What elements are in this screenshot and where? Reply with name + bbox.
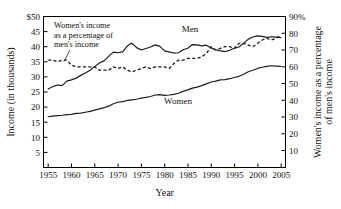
x-tick-label-2005: 2005 <box>272 170 291 180</box>
x-tick-label-1990: 1990 <box>202 170 221 180</box>
right-tick-label-30: 30 <box>289 112 299 122</box>
series-label-men: Men <box>182 24 199 34</box>
x-axis-title: Year <box>155 187 174 198</box>
y-axis-title-right-line1: Women's income as a percentage <box>312 25 323 158</box>
chart-svg: $50 45 40 35 30 25 20 15 10 5 <box>0 0 341 209</box>
right-axis-ticks <box>282 17 286 151</box>
left-tick-label-15: 15 <box>31 118 41 128</box>
x-tick-label-1995: 1995 <box>226 170 245 180</box>
right-tick-label-70: 70 <box>289 45 299 55</box>
x-tick-label-1980: 1980 <box>156 170 175 180</box>
y-axis-title-left: Income (in thousands) <box>5 47 17 136</box>
left-tick-label-30: 30 <box>31 72 41 82</box>
x-tick-label-1955: 1955 <box>39 170 58 180</box>
income-gender-line-chart: $50 45 40 35 30 25 20 15 10 5 <box>0 0 341 209</box>
ratio-callout-line1: Women's income <box>54 21 110 30</box>
left-axis: $50 45 40 35 30 25 20 15 10 5 <box>27 12 48 158</box>
series-label-women: Women <box>164 96 192 106</box>
x-tick-label-1965: 1965 <box>86 170 105 180</box>
ratio-callout-line2: as a percentage of <box>54 31 113 40</box>
series-line-women <box>48 66 281 117</box>
y-axis-title-right-line2: of men's income <box>323 59 334 125</box>
right-tick-label-50: 50 <box>289 79 299 89</box>
right-tick-label-10: 10 <box>289 146 299 156</box>
x-tick-label-1960: 1960 <box>63 170 82 180</box>
x-tick-label-1985: 1985 <box>179 170 198 180</box>
right-tick-label-60: 60 <box>289 62 299 72</box>
right-tick-label-20: 20 <box>289 129 299 139</box>
left-tick-label-25: 25 <box>31 87 41 97</box>
right-tick-label-40: 40 <box>289 96 299 106</box>
right-tick-label-90: 90% <box>289 12 306 22</box>
right-tick-label-80: 80 <box>289 29 299 39</box>
x-tick-label-1975: 1975 <box>132 170 151 180</box>
x-axis: 1955 1960 1965 1970 1975 1980 1985 1990 … <box>39 164 291 181</box>
ratio-callout-line3: men's income <box>54 40 99 49</box>
x-axis-ticks <box>48 164 281 168</box>
left-axis-ticks <box>44 17 48 153</box>
left-tick-label-40: 40 <box>31 42 41 52</box>
left-tick-label-50: $50 <box>27 12 41 22</box>
ratio-callout: Women's income as a percentage of men's … <box>54 21 113 62</box>
left-tick-label-35: 35 <box>31 57 41 67</box>
x-tick-label-2000: 2000 <box>249 170 268 180</box>
left-tick-label-20: 20 <box>31 102 41 112</box>
left-tick-label-5: 5 <box>36 148 41 158</box>
x-tick-label-1970: 1970 <box>109 170 128 180</box>
right-axis: 90% 80 70 60 50 40 30 20 10 <box>282 12 307 156</box>
left-tick-label-45: 45 <box>31 27 41 37</box>
left-tick-label-10: 10 <box>31 133 41 143</box>
